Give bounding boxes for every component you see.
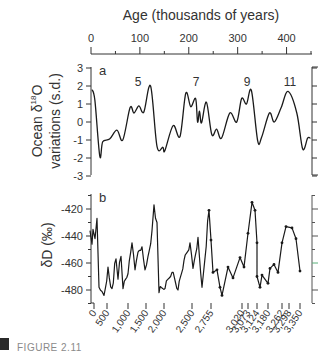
data-point: [212, 271, 215, 274]
data-point: [295, 237, 298, 240]
data-point: [221, 294, 224, 297]
data-point: [259, 286, 262, 289]
y-tick-label-b: -460: [61, 257, 83, 269]
peak-label: 9: [244, 75, 251, 89]
data-point: [273, 263, 276, 266]
delta-d-curve: [90, 202, 300, 295]
y-tick-label-b: -480: [61, 284, 83, 296]
data-point: [210, 239, 213, 242]
data-point: [291, 227, 294, 230]
data-point: [247, 232, 250, 235]
peak-label: 11: [284, 75, 297, 89]
top-axis-title: Age (thousands of years): [123, 7, 279, 23]
data-point: [216, 268, 219, 271]
top-tick-label: 100: [131, 32, 149, 44]
data-point: [269, 267, 272, 270]
svg-text:variations (s.d.): variations (s.d.): [47, 73, 63, 169]
data-point: [261, 274, 264, 277]
y-axis-label-b: δD (‰): [39, 222, 55, 267]
caption-marker: [0, 338, 9, 350]
panel-b: b -420-440-460-480 δD (‰) 05001,0001,500…: [39, 190, 318, 335]
data-point: [208, 209, 211, 212]
data-point: [285, 225, 288, 228]
data-point: [219, 286, 222, 289]
panel-a: a 3210-1-2-3 Ocean δ18O variations (s.d.…: [29, 62, 318, 182]
top-tick-label: 300: [228, 32, 246, 44]
y-tick-label-a: 3: [77, 62, 83, 74]
y-tick-label-a: 1: [77, 98, 83, 110]
y-tick-label-a: -1: [73, 134, 83, 146]
y-tick-label-a: -2: [73, 152, 83, 164]
bottom-tick-label: 2,755: [192, 307, 216, 334]
delta-o18-curve: [92, 85, 311, 157]
top-tick-label: 200: [180, 32, 198, 44]
caption-text: FIGURE 2.11: [17, 343, 82, 353]
data-point: [254, 209, 257, 212]
panel-b-label: b: [99, 190, 106, 205]
data-point: [281, 241, 284, 244]
data-point: [277, 271, 280, 274]
data-point: [251, 201, 254, 204]
bottom-tick-label: 500: [93, 307, 112, 327]
y-tick-label-b: -440: [61, 230, 83, 242]
data-point: [243, 266, 246, 269]
data-point: [299, 270, 302, 273]
data-point: [256, 241, 259, 244]
y-tick-label-a: 2: [77, 80, 83, 92]
figure-caption: FIGURE 2.11: [0, 338, 82, 350]
y-tick-label-b: -420: [61, 203, 83, 215]
data-point: [227, 266, 230, 269]
y-axis-label-a: Ocean δ18O variations (s.d.): [29, 73, 63, 169]
panel-a-label: a: [99, 63, 107, 78]
top-axis: 0100200300400: [88, 32, 312, 54]
top-tick-label: 400: [277, 32, 295, 44]
peak-label: 7: [193, 75, 200, 89]
top-tick-label: 0: [88, 32, 94, 44]
y-tick-label-a: -3: [73, 170, 83, 182]
peak-label: 5: [135, 75, 142, 89]
data-point: [256, 275, 259, 278]
y-tick-label-a: 0: [77, 116, 83, 128]
svg-text:Ocean δ18O: Ocean δ18O: [29, 85, 45, 158]
bottom-tick-label: 2,000: [145, 307, 169, 334]
data-point: [239, 256, 242, 259]
bottom-tick-label: 2,500: [173, 307, 197, 334]
data-point: [232, 277, 235, 280]
data-point: [267, 282, 270, 285]
